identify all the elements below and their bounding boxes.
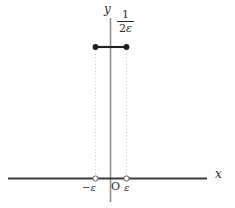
closed-endpoint-right-dot <box>124 44 130 50</box>
open-endpoint-right-dot <box>124 176 129 181</box>
pulse-height-denominator-symbol: ε <box>126 22 132 35</box>
pulse-height-denominator-coefficient: 2 <box>119 22 126 35</box>
open-endpoint-left-dot <box>93 176 98 181</box>
tick-label-positive-epsilon: ε <box>124 183 129 193</box>
y-axis-label: y <box>104 3 111 15</box>
origin-label: O <box>111 181 120 192</box>
pulse-height-label: 1 2ε <box>117 9 134 34</box>
pulse-height-denominator: 2ε <box>117 22 134 34</box>
pulse-height-numerator: 1 <box>117 9 134 21</box>
tick-label-negative-epsilon: −ε <box>82 183 96 193</box>
closed-endpoint-left-dot <box>93 44 99 50</box>
pulse-function-figure: y x 1 2ε −ε O ε <box>0 0 235 208</box>
x-axis-label: x <box>215 168 222 180</box>
